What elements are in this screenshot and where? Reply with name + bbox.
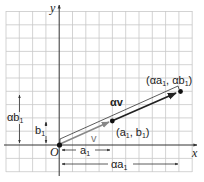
dimension-b1: b1 — [35, 122, 46, 143]
svg-text:αb1: αb1 — [7, 111, 23, 124]
svg-text:b1: b1 — [35, 124, 45, 137]
point-a1-b1 — [110, 119, 115, 124]
origin-label: O — [50, 145, 59, 159]
dimension-alpha-b1: αb1 — [7, 95, 23, 143]
vector-v — [60, 122, 109, 144]
grid — [6, 11, 192, 172]
svg-text:αa1: αa1 — [111, 158, 127, 171]
scalar-multiple-vector-diagram: y x O v αv (a1, b1) (αa1, αb1) a1 αa1 b1 — [0, 0, 204, 182]
dimension-alpha-a1: αa1 — [62, 158, 178, 171]
vector-v-label: v — [91, 132, 97, 144]
origin-point — [57, 142, 62, 147]
point-alpha-a1-alpha-b1 — [178, 89, 183, 94]
y-axis-label: y — [49, 1, 56, 15]
point-alpha-a1-alpha-b1-label: (αa1, αb1) — [146, 74, 192, 87]
vector-alpha-v-label: αv — [110, 96, 124, 108]
svg-text:a1: a1 — [80, 144, 90, 157]
point-a1-b1-label: (a1, b1) — [116, 126, 150, 139]
x-axis-label: x — [191, 146, 198, 160]
dimension-a1: a1 — [62, 144, 110, 157]
